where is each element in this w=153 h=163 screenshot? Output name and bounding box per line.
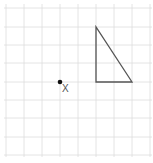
grid-lines bbox=[4, 4, 152, 157]
grid-diagram: X bbox=[0, 0, 153, 163]
point-label-x: X bbox=[62, 83, 69, 94]
